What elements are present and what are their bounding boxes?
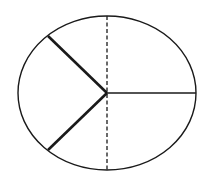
divided-ellipse-diagram: [0, 0, 213, 182]
radius-upper-left: [48, 36, 107, 93]
radius-lower-left: [48, 93, 107, 150]
